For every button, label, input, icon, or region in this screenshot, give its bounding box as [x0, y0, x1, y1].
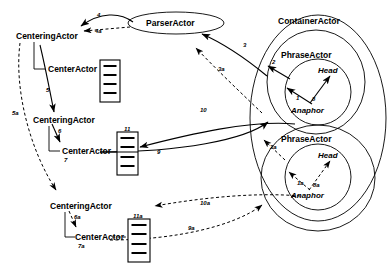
parser-actor-label: ParserActor: [146, 19, 195, 28]
list-box-11: [117, 132, 138, 175]
anaphor-1-label: Anaphor: [291, 107, 324, 115]
center-actor-3-label: CenterActor: [75, 233, 124, 242]
edge-4: [81, 15, 133, 26]
bracket-group-1: [34, 42, 45, 69]
edge-1: [287, 88, 312, 104]
edge-3a: [196, 48, 262, 113]
edge-label-5a: 5a: [12, 110, 19, 116]
edge-label-8a: 8a: [313, 182, 320, 188]
anaphor-2-label: Anaphor: [291, 192, 324, 200]
edge-label-7: 7: [64, 157, 67, 163]
edge-label-3: 3: [243, 42, 246, 48]
edge-label-6: 6: [58, 128, 61, 134]
centering-actor-1-label: CenteringActor: [16, 32, 78, 41]
center-actor-2-label: CenterActor: [62, 147, 111, 156]
edge-label-4: 4: [97, 12, 100, 18]
head-1-label: Head: [318, 67, 338, 75]
edge-label-7a: 7a: [78, 243, 85, 249]
list-box-11-label: 11: [124, 126, 130, 132]
edge-label-8: 8: [312, 96, 315, 102]
center-actor-1-label: CenterActor: [48, 65, 97, 74]
edge-label-9a: 9a: [188, 225, 195, 231]
edge-label-3a: 3a: [218, 66, 225, 72]
phrase-actor-1-shape: [267, 30, 365, 134]
list-box-11a-label: 11a: [133, 213, 143, 219]
phrase-actor-2-label: PhraseActor: [281, 135, 332, 144]
edge-4a: [84, 27, 130, 31]
edge-label-6a: 6a: [74, 214, 81, 220]
edge-label-5: 5: [46, 87, 49, 93]
edge-label-10a: 10a: [200, 200, 210, 206]
phrase-actor-1-label: PhraseActor: [281, 51, 332, 60]
edge-label-10: 10: [200, 107, 207, 113]
centering-actor-2-label: CenteringActor: [33, 116, 95, 125]
list-box-11a: [128, 219, 150, 262]
centering-actor-3-label: CenteringActor: [50, 202, 112, 211]
edge-label-2a: 2a: [270, 144, 277, 150]
head-2-label: Head: [318, 152, 338, 160]
edge-label-9: 9: [157, 149, 160, 155]
edge-2: [268, 66, 290, 79]
diagram-canvas: ParserActor ContainerActor PhraseActor P…: [0, 0, 388, 279]
edge-label-4a: 4a: [95, 28, 102, 34]
edge-label-2: 2: [272, 59, 275, 65]
edge-10a: [155, 195, 300, 206]
edge-5: [40, 45, 54, 112]
edge-label-1a: 1a: [297, 180, 304, 186]
container-actor-label: ContainerActor: [278, 17, 340, 26]
edge-label-1: 1: [296, 95, 299, 101]
list-box-1: [100, 60, 120, 102]
